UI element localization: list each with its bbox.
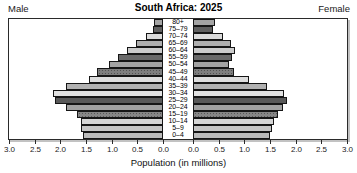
male-bar-row: [9, 90, 163, 97]
axis-tick: [219, 140, 220, 144]
male-bar-row: [9, 76, 163, 83]
female-bar: [193, 97, 287, 104]
female-bar-row: [193, 83, 347, 90]
female-header-label: Female: [318, 3, 350, 14]
male-header-label: Male: [8, 3, 29, 14]
axis-tick-label: 3.0: [342, 145, 353, 154]
female-bar: [193, 40, 231, 47]
male-bar-row: [9, 83, 163, 90]
female-bar: [193, 26, 213, 33]
female-bar: [193, 118, 274, 125]
axis-tick: [137, 140, 138, 144]
male-bar: [153, 26, 163, 33]
male-bar: [81, 118, 163, 125]
axis-tick: [163, 140, 164, 144]
female-bar: [193, 104, 283, 111]
female-bar-row: [193, 125, 347, 132]
male-bar-row: [9, 118, 163, 125]
axis-tick-label: 0.0: [188, 145, 199, 154]
female-bar: [193, 47, 235, 54]
male-bar: [127, 47, 163, 54]
axis-tick-label: 0.0: [158, 145, 169, 154]
female-bar: [193, 83, 267, 90]
male-bar-row: [9, 47, 163, 54]
female-bar: [193, 54, 232, 61]
male-bar-row: [9, 33, 163, 40]
female-bars-column: [193, 19, 347, 139]
age-label: 0–4: [163, 132, 193, 139]
axis-tick-label: 3.0: [4, 145, 15, 154]
female-bar-row: [193, 68, 347, 75]
male-bar-row: [9, 132, 163, 139]
female-bar: [193, 76, 249, 83]
axis-tick-label: 2.5: [316, 145, 327, 154]
male-bar: [109, 61, 163, 68]
female-bar-row: [193, 76, 347, 83]
male-bar-row: [9, 61, 163, 68]
axis-tick-label: 2.0: [291, 145, 302, 154]
male-bar: [77, 111, 163, 118]
male-bar: [146, 33, 163, 40]
pyramid-frame: 80+75–7970–7465–6960–6455–5950–5445–4940…: [8, 18, 348, 140]
female-bar: [193, 33, 223, 40]
male-bars-column: [9, 19, 163, 139]
male-bar-row: [9, 104, 163, 111]
female-bar-row: [193, 19, 347, 26]
male-bar-row: [9, 19, 163, 26]
female-bar: [193, 90, 284, 97]
female-bar: [193, 61, 229, 68]
male-bar: [154, 19, 163, 26]
female-bar: [193, 19, 215, 26]
male-bar-row: [9, 125, 163, 132]
x-axis-title: Population (in millions): [131, 157, 227, 168]
male-bar-row: [9, 54, 163, 61]
chart-title: South Africa: 2025: [135, 2, 222, 13]
axis-tick: [193, 140, 194, 144]
male-bar: [55, 97, 163, 104]
female-bar-row: [193, 97, 347, 104]
female-bar-row: [193, 104, 347, 111]
male-bar-row: [9, 68, 163, 75]
male-bar: [89, 76, 163, 83]
axis-tick-label: 1.5: [265, 145, 276, 154]
male-bar: [118, 54, 163, 61]
female-bar-row: [193, 47, 347, 54]
female-bar-row: [193, 61, 347, 68]
female-bar-row: [193, 33, 347, 40]
male-bar: [66, 104, 163, 111]
female-bar: [193, 68, 234, 75]
male-bar-row: [9, 111, 163, 118]
male-bar: [97, 68, 163, 75]
male-bar: [83, 132, 163, 139]
axis-tick: [321, 140, 322, 144]
axis-tick-label: 1.5: [81, 145, 92, 154]
axis-tick: [86, 140, 87, 144]
female-bar-row: [193, 26, 347, 33]
male-bar-row: [9, 40, 163, 47]
axis-tick: [35, 140, 36, 144]
axis-tick-label: 0.5: [132, 145, 143, 154]
female-bar: [193, 132, 270, 139]
male-bar: [81, 125, 163, 132]
male-bar-row: [9, 97, 163, 104]
axis-tick-label: 1.0: [107, 145, 118, 154]
female-bar: [193, 111, 278, 118]
age-labels-column: 80+75–7970–7465–6960–6455–5950–5445–4940…: [163, 19, 193, 139]
axis-tick-label: 0.5: [214, 145, 225, 154]
axis-tick-label: 1.0: [239, 145, 250, 154]
male-bar: [136, 40, 163, 47]
axis-tick: [244, 140, 245, 144]
male-bar: [53, 90, 163, 97]
axis-tick: [9, 140, 10, 144]
female-bar-row: [193, 111, 347, 118]
female-bar-row: [193, 90, 347, 97]
axis-tick: [296, 140, 297, 144]
axis-tick: [347, 140, 348, 144]
axis-tick: [270, 140, 271, 144]
female-bar-row: [193, 54, 347, 61]
axis-tick: [60, 140, 61, 144]
axis-tick-label: 2.0: [55, 145, 66, 154]
axis-tick: [112, 140, 113, 144]
female-bar: [193, 125, 272, 132]
male-bar-row: [9, 26, 163, 33]
